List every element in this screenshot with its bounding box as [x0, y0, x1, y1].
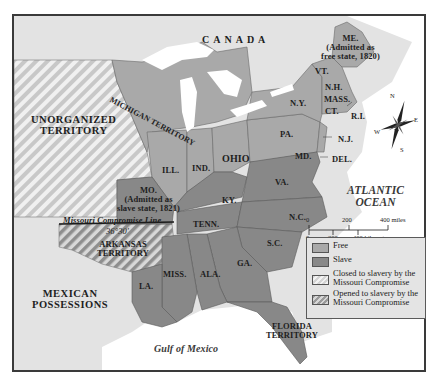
label-state-mo: MO. (Admitted as slave state, 1821): [117, 186, 180, 213]
compass-w: W: [374, 128, 380, 135]
legend-label: Free: [333, 241, 348, 250]
compass-star-icon: [378, 96, 418, 154]
label-line: ATLANTIC: [347, 184, 404, 196]
compass-rose: N S E W: [378, 96, 418, 154]
label-missouri-compromise-line: Missouri Compromise Line: [63, 216, 161, 225]
swatch-opened-hatch-icon: [312, 295, 329, 305]
legend-label: Closed to slavery by the Missouri Compro…: [333, 269, 422, 287]
label-state-vt: VT.: [315, 67, 329, 76]
label-state-ind: IND.: [192, 164, 210, 173]
swatch-free-icon: [312, 243, 329, 253]
label-gulf-of-mexico: Gulf of Mexico: [154, 344, 218, 355]
label-state-ill: ILL.: [162, 166, 179, 175]
label-state-nj: N.J.: [338, 135, 353, 144]
label-state-ohio: OHIO: [222, 154, 250, 165]
legend-label: Opened to slavery by the Missouri Compro…: [333, 289, 422, 307]
label-state-nc: N.C.: [289, 213, 306, 222]
scale-miles-0: 0: [306, 216, 309, 223]
legend-label: Slave: [333, 255, 352, 264]
label-state-ky: KY.: [222, 196, 236, 205]
label-state-md: MD.: [295, 152, 312, 161]
label-arkansas-territory: ARKANSAS TERRITORY: [97, 240, 149, 258]
label-line: TERRITORY: [266, 331, 318, 340]
legend-item-closed: Closed to slavery by the Missouri Compro…: [312, 269, 422, 287]
label-state-ga: GA.: [237, 259, 252, 268]
label-state-pa: PA.: [280, 130, 293, 139]
label-line: slave state, 1821): [117, 204, 180, 213]
swatch-closed-hatch-icon: [312, 275, 329, 285]
label-state-me: ME. (Admitted as free state, 1820): [321, 34, 380, 61]
label-state-miss: MISS.: [163, 270, 186, 279]
label-state-ct: CT.: [325, 107, 339, 116]
label-mexican-possessions: MEXICAN POSSESSIONS: [32, 288, 108, 310]
compass-e: E: [414, 116, 418, 123]
label-state-ri: R.I.: [351, 112, 365, 121]
label-line: TERRITORY: [31, 125, 116, 136]
label-line: free state, 1820): [321, 52, 380, 61]
label-canada: CANADA: [202, 35, 269, 46]
swatch-slave-icon: [312, 257, 329, 267]
legend-item-slave: Slave: [312, 255, 422, 267]
label-latitude: 36°30′: [106, 227, 129, 236]
label-state-tenn: TENN.: [193, 220, 219, 229]
scale-miles-400: 400 miles: [380, 216, 405, 223]
label-florida-territory: FLORIDA TERRITORY: [266, 322, 318, 340]
label-state-sc: S.C.: [267, 239, 283, 248]
label-line: UNORGANIZED: [31, 114, 116, 125]
scale-miles-200: 200: [342, 216, 352, 223]
label-state-la: LA.: [139, 282, 153, 291]
label-line: MEXICAN: [32, 288, 108, 299]
label-line: POSSESSIONS: [32, 299, 108, 310]
label-state-mass: MASS.: [324, 95, 350, 104]
label-state-ny: N.Y.: [290, 99, 306, 108]
label-atlantic-ocean: ATLANTIC OCEAN: [347, 184, 404, 208]
map-legend: Free Slave Closed to slavery by the Miss…: [306, 237, 426, 319]
compass-s: S: [400, 146, 404, 153]
label-state-nh: N.H.: [325, 83, 342, 92]
label-state-ala: ALA.: [200, 270, 220, 279]
scale-bar: 0 200 400 miles 0 200 400 kilometers: [308, 222, 408, 238]
label-line: OCEAN: [347, 196, 404, 208]
legend-item-opened: Opened to slavery by the Missouri Compro…: [312, 289, 422, 307]
compass-n: N: [390, 92, 395, 99]
label-state-va: VA.: [275, 178, 289, 187]
label-state-del: DEL.: [332, 155, 352, 164]
label-unorganized-territory: UNORGANIZED TERRITORY: [31, 114, 116, 136]
legend-item-free: Free: [312, 241, 422, 253]
label-line: TERRITORY: [97, 249, 149, 258]
